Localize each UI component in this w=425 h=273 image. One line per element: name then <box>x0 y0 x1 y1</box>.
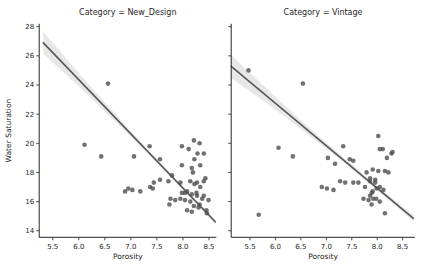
y-tick-label: 16 <box>25 198 34 206</box>
data-point <box>376 169 381 174</box>
data-point <box>190 210 195 215</box>
data-point <box>195 151 200 156</box>
data-point <box>385 156 390 161</box>
data-point <box>331 188 336 193</box>
data-point <box>378 185 383 190</box>
x-tick-label: 5.5 <box>244 243 255 251</box>
data-point <box>158 177 163 182</box>
data-point <box>192 157 197 162</box>
data-point <box>374 196 379 201</box>
figure-background <box>0 0 425 273</box>
data-point <box>167 202 172 207</box>
x-tick-label: 7.0 <box>125 243 136 251</box>
data-point <box>383 211 388 216</box>
data-point <box>130 188 135 193</box>
data-point <box>256 212 261 217</box>
data-point <box>197 202 202 207</box>
data-point <box>368 176 373 181</box>
data-point <box>373 177 378 182</box>
data-point <box>106 81 111 86</box>
data-point <box>205 211 210 216</box>
data-point <box>326 156 331 161</box>
data-point <box>180 144 185 149</box>
x-axis-label: Porosity <box>113 252 143 261</box>
data-point <box>173 198 178 203</box>
panel-title: Category = New_Design <box>79 8 176 17</box>
data-point <box>190 192 195 197</box>
x-tick-label: 8.5 <box>397 243 408 251</box>
x-tick-label: 5.5 <box>47 243 58 251</box>
x-tick-label: 6.0 <box>73 243 84 251</box>
data-point <box>361 196 366 201</box>
data-point <box>198 185 203 190</box>
data-point <box>132 154 137 159</box>
data-point <box>341 144 346 149</box>
data-point <box>170 173 175 178</box>
y-axis-label: Water Saturation <box>4 99 13 163</box>
data-point <box>197 141 202 146</box>
x-tick-label: 7.0 <box>321 243 332 251</box>
panel-title: Category = Vintage <box>284 8 363 17</box>
data-point <box>366 198 371 203</box>
data-point <box>82 143 87 148</box>
data-point <box>206 198 211 203</box>
data-point <box>381 147 386 152</box>
data-point <box>126 186 131 191</box>
x-tick-label: 6.5 <box>295 243 306 251</box>
data-point <box>333 161 338 166</box>
lmplot-figure: 5.56.06.57.07.58.08.51416182022242628Cat… <box>0 0 425 273</box>
y-tick-label: 22 <box>25 111 34 119</box>
data-point <box>356 180 361 185</box>
data-point <box>178 180 183 185</box>
data-point <box>192 204 197 209</box>
scatter-facets-svg: 5.56.06.57.07.58.08.51416182022242628Cat… <box>0 0 425 273</box>
x-tick-label: 7.5 <box>151 243 162 251</box>
data-point <box>138 189 143 194</box>
y-tick-label: 20 <box>25 140 34 148</box>
data-point <box>370 189 375 194</box>
data-point <box>246 68 251 73</box>
data-point <box>168 196 173 201</box>
x-tick-label: 8.0 <box>372 243 383 251</box>
data-point <box>202 194 207 199</box>
data-point <box>166 179 171 184</box>
data-point <box>351 159 356 164</box>
data-point <box>147 144 152 149</box>
data-point <box>195 180 200 185</box>
data-point <box>386 170 391 175</box>
data-point <box>185 208 190 213</box>
data-point <box>351 180 356 185</box>
data-point <box>203 176 208 181</box>
data-point <box>381 188 386 193</box>
x-tick-label: 6.0 <box>270 243 281 251</box>
x-axis-label: Porosity <box>308 252 338 261</box>
data-point <box>338 179 343 184</box>
data-point <box>378 199 383 204</box>
y-tick-label: 24 <box>25 81 34 89</box>
y-tick-label: 18 <box>25 169 34 177</box>
data-point <box>191 170 196 175</box>
data-point <box>198 163 203 168</box>
data-point <box>202 151 207 156</box>
data-point <box>99 154 104 159</box>
data-point <box>195 194 200 199</box>
data-point <box>370 167 375 172</box>
data-point <box>152 180 157 185</box>
data-point <box>320 185 325 190</box>
y-tick-label: 14 <box>25 227 34 235</box>
data-point <box>343 180 348 185</box>
data-point <box>158 157 163 162</box>
data-point <box>364 170 369 175</box>
data-point <box>188 199 193 204</box>
data-point <box>178 196 183 201</box>
x-tick-label: 7.5 <box>346 243 357 251</box>
x-tick-label: 6.5 <box>99 243 110 251</box>
x-tick-label: 8.5 <box>203 243 214 251</box>
data-point <box>369 202 374 207</box>
y-tick-label: 26 <box>25 52 34 60</box>
data-point <box>192 138 197 143</box>
data-point <box>183 198 188 203</box>
data-point <box>390 150 395 155</box>
data-point <box>185 189 190 194</box>
y-tick-label: 28 <box>25 23 34 31</box>
